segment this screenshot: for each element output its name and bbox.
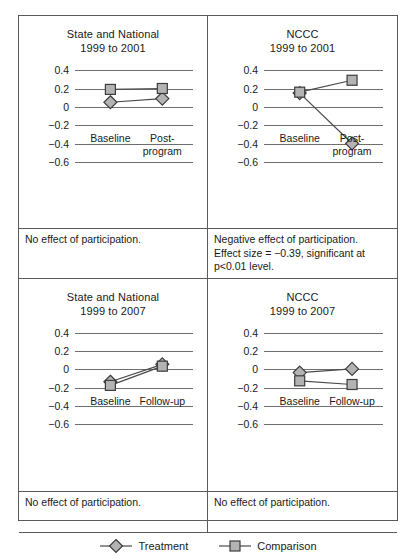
y-axis-tick-label: −0.6 [237, 418, 258, 430]
chart-row-bottom: State and National 1999 to 2007 0.40.20−… [19, 278, 397, 491]
marker-diamond [104, 96, 117, 109]
y-axis-tick-label: 0 [252, 101, 258, 113]
panel-title-line1: NCCC [286, 291, 318, 303]
marker-diamond [110, 540, 123, 553]
x-axis-labels: BaselineFollow-up [264, 395, 383, 427]
panel-note: Negative effect of participation.Effect … [208, 229, 397, 278]
legend-item-comparison[interactable]: Comparison [218, 538, 316, 554]
legend-item-treatment[interactable]: Treatment [99, 538, 188, 554]
marker-square [105, 84, 115, 94]
series-line-comparison [110, 366, 162, 385]
series-line-comparison [110, 89, 162, 90]
x-axis-tick: Baseline [280, 132, 320, 145]
note-line: p<0.01 level. [214, 260, 392, 274]
x-axis-tick-label-line2: program [143, 145, 182, 158]
x-axis-tick-label: Post- [340, 132, 365, 144]
note-row-top: No effect of participation. Negative eff… [19, 228, 397, 278]
y-axis-tick-label: 0.2 [54, 345, 69, 357]
y-axis-tick-label: 0.4 [243, 64, 258, 76]
panel-title: State and National 1999 to 2007 [19, 279, 207, 318]
x-axis-tick: Baseline [90, 395, 130, 408]
legend-label: Comparison [257, 541, 316, 552]
legend-marker-icon [99, 538, 133, 554]
marker-square [347, 379, 357, 389]
series-line-treatment [110, 99, 162, 103]
y-axis-tick-label: −0.4 [48, 400, 69, 412]
x-axis-tick: Follow-up [140, 395, 186, 408]
note-line: No effect of participation. [25, 233, 202, 247]
y-axis-tick-label: 0.4 [54, 327, 69, 339]
x-axis-tick: Baseline [90, 132, 130, 145]
y-axis-tick-label: 0.2 [243, 345, 258, 357]
panel-title-line2: 1999 to 2001 [19, 41, 207, 55]
x-axis-tick-label: Baseline [280, 395, 320, 407]
x-axis-tick-label: Follow-up [329, 395, 375, 407]
y-axis-tick-label: 0.2 [243, 83, 258, 95]
figure-frame: State and National 1999 to 2001 0.40.20−… [18, 15, 398, 521]
chart-legend: TreatmentComparison [19, 532, 397, 558]
panel-note: No effect of participation. [19, 492, 208, 532]
series-line-comparison [300, 80, 352, 92]
x-axis-tick: Baseline [280, 395, 320, 408]
marker-square [105, 380, 115, 390]
x-axis-tick-label: Baseline [90, 395, 130, 407]
x-axis-tick-label: Baseline [280, 132, 320, 144]
series-line-comparison [300, 380, 352, 384]
y-axis-tick-label: −0.6 [48, 156, 69, 168]
y-axis-tick-label: −0.2 [237, 119, 258, 131]
marker-square [295, 87, 305, 97]
panel-nccc-1999-2001: NCCC 1999 to 2001 0.40.20−0.2−0.4−0.6 Ba… [208, 16, 397, 228]
y-axis-tick-label: −0.6 [48, 418, 69, 430]
panel-note: No effect of participation. [208, 492, 397, 532]
panel-title: State and National 1999 to 2001 [19, 16, 207, 55]
y-axis-tick-label: 0 [63, 363, 69, 375]
panel-state-national-1999-2007: State and National 1999 to 2007 0.40.20−… [19, 279, 208, 491]
legend-marker-icon [218, 538, 252, 554]
legend-label: Treatment [138, 541, 188, 552]
y-axis-tick-label: 0 [63, 101, 69, 113]
panel-state-national-1999-2001: State and National 1999 to 2001 0.40.20−… [19, 16, 208, 228]
marker-square [230, 541, 240, 551]
y-axis-tick-label: −0.2 [237, 382, 258, 394]
series-line-treatment [300, 368, 352, 372]
panel-title-line1: State and National [67, 28, 159, 40]
x-axis-tick-label: Follow-up [140, 395, 186, 407]
y-axis-tick-label: 0.4 [54, 64, 69, 76]
panel-title-line2: 1999 to 2007 [19, 304, 207, 318]
panel-title-line1: NCCC [286, 28, 318, 40]
panel-title: NCCC 1999 to 2001 [208, 16, 397, 55]
marker-square [157, 361, 167, 371]
marker-diamond [346, 362, 359, 375]
x-axis-tick-label: Baseline [90, 132, 130, 144]
note-line: No effect of participation. [25, 496, 202, 510]
panel-title-line1: State and National [67, 291, 159, 303]
panel-title: NCCC 1999 to 2007 [208, 279, 397, 318]
y-axis-tick-label: −0.2 [48, 119, 69, 131]
chart-row-top: State and National 1999 to 2001 0.40.20−… [19, 16, 397, 228]
x-axis-tick: Post-program [332, 132, 371, 158]
series-line-treatment [110, 364, 162, 381]
panel-note: No effect of participation. [19, 229, 208, 278]
x-axis-labels: BaselinePost-program [75, 132, 193, 164]
y-axis-tick-label: −0.6 [237, 156, 258, 168]
marker-square [157, 84, 167, 94]
y-axis-tick-label: 0.2 [54, 83, 69, 95]
x-axis-tick-label: Post- [150, 132, 175, 144]
panel-title-line2: 1999 to 2001 [208, 41, 397, 55]
y-axis-tick-label: 0.4 [243, 327, 258, 339]
x-axis-labels: BaselinePost-program [264, 132, 383, 164]
marker-square [295, 375, 305, 385]
note-row-bottom: No effect of participation. No effect of… [19, 491, 397, 532]
y-axis-tick-label: −0.4 [237, 400, 258, 412]
y-axis-tick-label: −0.4 [48, 138, 69, 150]
y-axis-tick-label: −0.4 [237, 138, 258, 150]
x-axis-labels: BaselineFollow-up [75, 395, 193, 427]
note-line: Effect size = −0.39, significant at [214, 247, 392, 261]
marker-square [347, 75, 357, 85]
panel-nccc-1999-2007: NCCC 1999 to 2007 0.40.20−0.2−0.4−0.6 Ba… [208, 279, 397, 491]
panel-title-line2: 1999 to 2007 [208, 304, 397, 318]
note-line: Negative effect of participation. [214, 233, 392, 247]
x-axis-tick-label-line2: program [332, 145, 371, 158]
x-axis-tick: Post-program [143, 132, 182, 158]
x-axis-tick: Follow-up [329, 395, 375, 408]
